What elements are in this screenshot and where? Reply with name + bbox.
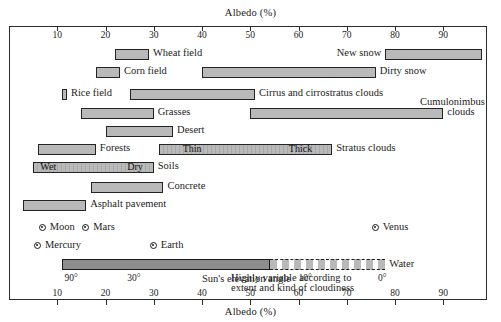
- bar-water-dashed: [270, 259, 386, 270]
- tick-label-bottom-20: 20: [101, 288, 111, 298]
- inbar-label-thin: Thin: [183, 143, 202, 154]
- planet-marker-icon: [39, 224, 46, 231]
- label-asphalt-pavement: Asphalt pavement: [90, 198, 166, 209]
- label-stratus-clouds: Stratus clouds: [336, 142, 395, 153]
- planet-label-earth: Earth: [161, 239, 184, 250]
- tickmark-bottom-40: [202, 300, 203, 305]
- tick-label-top-80: 80: [390, 30, 400, 40]
- tick-label-bottom-50: 50: [246, 288, 256, 298]
- row-corn-dirtysnow: Corn field Dirty snow: [0, 66, 501, 80]
- label-new-snow: New snow: [337, 47, 382, 58]
- top-axis-title: Albedo (%): [0, 7, 501, 18]
- bottom-axis-title: Albedo (%): [0, 306, 501, 317]
- label-water: Water: [389, 258, 414, 269]
- sun-angle-0: 0°: [378, 273, 387, 283]
- label-grasses: Grasses: [158, 106, 191, 117]
- label-soils: Soils: [158, 160, 179, 171]
- label-cumulonimbus-line2: clouds: [447, 106, 474, 117]
- bar-cirrus-clouds: [130, 89, 255, 100]
- bar-wheat-field: [115, 49, 149, 60]
- tick-label-top-20: 20: [101, 30, 111, 40]
- bar-new-snow: [385, 49, 482, 60]
- row-water: Water: [0, 259, 501, 273]
- label-concrete: Concrete: [167, 180, 205, 191]
- tickmark-bottom-20: [106, 300, 107, 305]
- inbar-label-dry: Dry: [127, 161, 143, 172]
- row-desert: Desert: [0, 125, 501, 139]
- bar-rice-field: [62, 89, 67, 100]
- sun-angle-30: 30°: [127, 273, 140, 283]
- planet-label-moon: Moon: [50, 221, 75, 232]
- tick-label-bottom-40: 40: [197, 288, 207, 298]
- tickmark-bottom-30: [154, 300, 155, 305]
- top-tick-labels: 102030405060708090: [0, 30, 501, 44]
- tick-label-top-30: 30: [149, 30, 159, 40]
- bar-dirty-snow: [202, 67, 376, 78]
- tick-label-bottom-60: 60: [294, 288, 304, 298]
- planet-marker-icon: [150, 242, 157, 249]
- tickmark-bottom-70: [347, 300, 348, 305]
- tick-label-bottom-10: 10: [53, 288, 63, 298]
- tick-label-bottom-80: 80: [390, 288, 400, 298]
- tickmark-bottom-60: [299, 300, 300, 305]
- row-concrete: Concrete: [0, 181, 501, 195]
- planet-label-mars: Mars: [93, 221, 115, 232]
- row-wheat-newsnow: Wheat field New snow: [0, 48, 501, 62]
- bar-asphalt-pavement: [23, 200, 86, 211]
- planet-marker-icon: [82, 224, 89, 231]
- row-asphalt: Asphalt pavement: [0, 199, 501, 213]
- inbar-label-thick: Thick: [289, 143, 312, 154]
- planet-marker-icon: [34, 242, 41, 249]
- bar-desert: [106, 126, 174, 137]
- row-grasses-cumulonimbus: Grasses clouds: [0, 107, 501, 121]
- label-wheat-field: Wheat field: [153, 47, 202, 58]
- label-dirty-snow: Dirty snow: [380, 65, 427, 76]
- tickmark-bottom-50: [250, 300, 251, 305]
- bar-corn-field: [96, 67, 120, 78]
- tick-label-bottom-70: 70: [342, 288, 352, 298]
- bar-cumulonimbus-clouds: [250, 108, 443, 119]
- row-soils: Wet Dry Soils: [0, 161, 501, 175]
- tick-label-top-10: 10: [53, 30, 63, 40]
- tickmark-bottom-80: [395, 300, 396, 305]
- tick-label-bottom-90: 90: [439, 288, 449, 298]
- tick-label-top-50: 50: [246, 30, 256, 40]
- planet-label-mercury: Mercury: [45, 239, 81, 250]
- bar-grasses: [81, 108, 153, 119]
- tick-label-top-60: 60: [294, 30, 304, 40]
- bar-forests: [38, 144, 96, 155]
- row-planets-1: Moon Mars Venus: [0, 221, 501, 235]
- tick-label-top-40: 40: [197, 30, 207, 40]
- label-forests: Forests: [100, 142, 130, 153]
- tickmark-bottom-90: [443, 300, 444, 305]
- albedo-chart-figure: Albedo (%) 102030405060708090 Wheat fiel…: [0, 0, 501, 322]
- label-rice-field: Rice field: [71, 87, 112, 98]
- bar-water-solid: [62, 259, 269, 270]
- tick-label-bottom-30: 30: [149, 288, 159, 298]
- planet-label-venus: Venus: [383, 221, 409, 232]
- label-cirrus-clouds: Cirrus and cirrostratus clouds: [259, 87, 383, 98]
- row-forests-stratus: Forests Thin Thick Stratus clouds: [0, 143, 501, 157]
- tick-label-top-90: 90: [439, 30, 449, 40]
- label-desert: Desert: [177, 124, 204, 135]
- tick-label-top-70: 70: [342, 30, 352, 40]
- inbar-label-wet: Wet: [40, 161, 56, 172]
- planet-marker-icon: [372, 224, 379, 231]
- sun-angle-90: 90°: [64, 273, 77, 283]
- label-corn-field: Corn field: [124, 65, 167, 76]
- tickmark-bottom-10: [57, 300, 58, 305]
- row-planets-2: Mercury Earth: [0, 239, 501, 253]
- bar-concrete: [91, 182, 163, 193]
